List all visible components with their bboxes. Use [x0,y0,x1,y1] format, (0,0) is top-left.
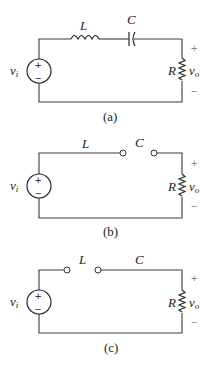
source-minus: − [35,187,41,199]
wire-top-left [39,270,64,290]
source-label: vi [10,294,19,310]
resistor-icon [179,174,185,196]
panel-c: + − vi L C R vo + − (c) [10,252,200,355]
caption-c: (c) [104,340,118,355]
inductor-label: L [79,18,87,33]
open-terminal-right-icon [95,267,101,273]
source-label: vi [10,63,19,79]
resistor-icon [179,58,185,80]
caption-a: (a) [103,109,117,124]
resistor-label: R [167,295,176,310]
output-plus: + [191,157,197,169]
capacitor-label: C [135,135,144,150]
open-terminal-right-icon [151,150,157,156]
source-minus: − [35,72,41,84]
output-minus: − [191,85,197,97]
open-terminal-left-icon [120,150,126,156]
source-plus: + [35,290,41,302]
output-plus: + [191,42,197,54]
output-label: vo [189,295,200,311]
inductor-label: L [81,136,89,151]
panel-b: + − vi L C R vo + − (b) [10,135,200,239]
wire-top-right [134,39,182,58]
capacitor-label: C [127,12,136,27]
resistor-icon [179,290,185,312]
output-label: vo [189,179,200,195]
wire-bottom [39,313,182,333]
wire-top-right [157,153,182,174]
source-plus: + [35,174,41,186]
wire-top-left [39,39,71,59]
output-plus: + [191,272,197,284]
resistor-label: R [167,179,176,194]
caption-b: (b) [103,224,118,239]
wire-bottom [39,197,182,218]
wire-bottom [39,81,182,102]
inductor-label: L [78,252,86,267]
output-label: vo [189,63,200,79]
output-minus: − [191,316,197,328]
output-minus: − [191,200,197,212]
source-label: vi [10,178,19,194]
resistor-label: R [167,63,176,78]
source-minus: − [35,303,41,315]
wire-top-left [39,153,120,174]
capacitor-label: C [135,252,144,267]
inductor-icon [71,36,99,40]
source-plus: + [35,59,41,71]
panel-a: + − vi L C R vo + − (a) [10,12,200,124]
open-terminal-left-icon [64,267,70,273]
wire-top-right [101,270,182,290]
circuit-figure: + − vi L C R vo + − (a) + − vi L C R vo … [0,0,216,367]
